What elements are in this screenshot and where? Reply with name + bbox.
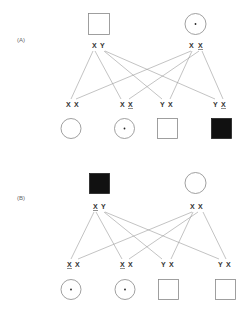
mother-genotype: X X — [189, 42, 203, 50]
mother-circle-icon — [185, 173, 206, 194]
carrier-dot-icon — [124, 289, 126, 291]
offspring-4-genotype: Y X — [218, 261, 231, 268]
panel-a-label: (A) — [17, 37, 25, 43]
affected-father-square-icon — [90, 174, 110, 194]
svg-text:X: X — [128, 101, 133, 108]
son-square-icon — [159, 280, 179, 300]
offspring-3-genotype: Y X — [160, 101, 173, 108]
inheritance-lines — [71, 212, 226, 259]
svg-text:X: X — [128, 261, 133, 268]
panel-b: (B) X Y X X — [17, 173, 236, 300]
svg-text:X: X — [66, 101, 71, 108]
offspring-4-genotype: Y X — [213, 101, 226, 109]
carrier-dot-icon — [70, 289, 72, 291]
svg-text:X: X — [93, 203, 98, 210]
offspring-1-genotype: X X — [66, 101, 79, 108]
father-genotype: X Y — [93, 203, 106, 211]
svg-text:X: X — [190, 203, 195, 210]
offspring-2-genotype: X X — [120, 261, 133, 269]
pedigree-diagram: (A) X Y X X — [0, 0, 250, 311]
son-square-icon — [158, 119, 178, 139]
carrier-dot-icon — [124, 128, 126, 130]
svg-text:Y: Y — [213, 101, 218, 108]
svg-text:Y: Y — [218, 261, 223, 268]
svg-text:Y: Y — [161, 261, 166, 268]
svg-text:X: X — [198, 42, 203, 49]
offspring-1-genotype: X X — [67, 261, 80, 269]
carrier-dot-icon — [195, 23, 197, 25]
son-square-icon — [216, 280, 236, 300]
svg-text:Y: Y — [100, 42, 105, 49]
mother-genotype: X X — [190, 203, 203, 210]
daughter-circle-icon — [61, 119, 81, 139]
svg-text:Y: Y — [101, 203, 106, 210]
father-square-icon — [89, 14, 110, 35]
svg-text:X: X — [74, 101, 79, 108]
svg-text:Y: Y — [160, 101, 165, 108]
svg-text:X: X — [67, 261, 72, 268]
svg-text:X: X — [168, 101, 173, 108]
svg-text:X: X — [92, 42, 97, 49]
panel-b-label: (B) — [17, 195, 25, 201]
svg-text:X: X — [169, 261, 174, 268]
svg-text:X: X — [120, 261, 125, 268]
affected-son-square-icon — [212, 119, 232, 139]
svg-text:X: X — [189, 42, 194, 49]
svg-text:X: X — [198, 203, 203, 210]
offspring-2-genotype: X X — [120, 101, 133, 109]
father-genotype: X Y — [92, 42, 105, 49]
offspring-3-genotype: Y X — [161, 261, 174, 268]
svg-text:X: X — [221, 101, 226, 108]
inheritance-lines — [71, 51, 223, 99]
svg-text:X: X — [226, 261, 231, 268]
svg-text:X: X — [120, 101, 125, 108]
panel-a: (A) X Y X X — [17, 14, 232, 139]
svg-text:X: X — [75, 261, 80, 268]
